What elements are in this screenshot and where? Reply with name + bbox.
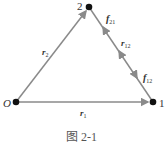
label-r1: r1	[80, 108, 87, 119]
node-1	[150, 99, 157, 106]
label-r12: r12	[121, 38, 131, 49]
node-label-O: O	[3, 97, 11, 109]
force-diagram: O 1 2 r2 r1 r12 f21 f12 图 2-1	[0, 0, 166, 147]
label-r2: r2	[42, 47, 49, 58]
node-label-1: 1	[159, 97, 165, 109]
node-O	[13, 99, 20, 106]
label-f21: f21	[106, 13, 115, 25]
node-2	[86, 4, 93, 11]
node-label-2: 2	[77, 0, 83, 12]
label-f12: f12	[143, 72, 152, 84]
edge-r2	[16, 11, 86, 102]
figure-caption: 图 2-1	[66, 130, 97, 144]
